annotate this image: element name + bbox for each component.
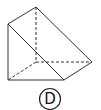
solid-edges (8, 7, 92, 80)
edge-bottom-right (64, 62, 92, 80)
option-label: D (38, 88, 62, 110)
option-letter: D (44, 92, 56, 107)
hidden-edge-left (8, 62, 36, 80)
edge-top-left (8, 7, 36, 24)
hidden-edges (8, 7, 92, 80)
edge-top-right (36, 7, 92, 62)
